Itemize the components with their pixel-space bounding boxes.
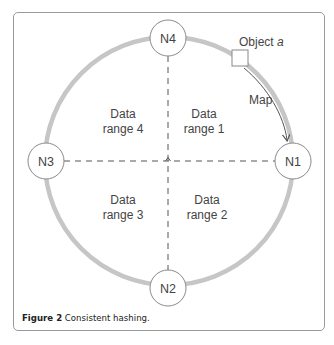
- map-label: Map: [249, 93, 273, 107]
- node-n4-label: N4: [160, 32, 176, 46]
- node-n3: N3: [28, 143, 64, 179]
- object-a-label: Object a: [239, 35, 284, 49]
- range-4-line1: Data: [110, 107, 136, 121]
- caption-text: Consistent hashing.: [62, 313, 150, 323]
- node-n1: N1: [275, 143, 311, 179]
- range-3-line2: range 3: [103, 208, 144, 222]
- range-3-line1: Data: [110, 193, 136, 207]
- range-2-line1: Data: [194, 193, 220, 207]
- node-n2: N2: [150, 270, 186, 306]
- node-n1-label: N1: [285, 155, 301, 169]
- consistent-hashing-diagram: N4 N1 N3 N2 Data range 4 Data range 1 Da…: [0, 0, 334, 345]
- range-1-line2: range 1: [184, 122, 225, 136]
- range-4-line2: range 4: [103, 122, 144, 136]
- node-n3-label: N3: [38, 155, 54, 169]
- object-label-text: Object: [239, 35, 274, 49]
- node-n4: N4: [150, 20, 186, 56]
- node-n2-label: N2: [160, 282, 176, 296]
- figure-caption: Figure 2 Consistent hashing.: [22, 313, 150, 323]
- object-a-square: [232, 50, 248, 66]
- caption-figure-number: Figure 2: [22, 313, 62, 323]
- range-2-line2: range 2: [187, 208, 228, 222]
- object-var-text: a: [277, 35, 284, 49]
- range-1-line1: Data: [191, 107, 217, 121]
